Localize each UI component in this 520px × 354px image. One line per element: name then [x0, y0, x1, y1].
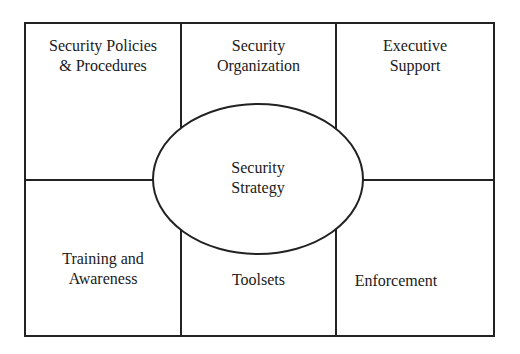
- center-security-strategy: Security Strategy: [183, 158, 333, 198]
- cell-toolsets: Toolsets: [181, 270, 336, 290]
- security-strategy-diagram: Security Policies & Procedures Security …: [0, 0, 520, 354]
- cell-security-organization: Security Organization: [181, 36, 336, 76]
- cell-training-awareness: Training and Awareness: [25, 249, 181, 289]
- cell-enforcement: Enforcement: [336, 271, 456, 291]
- cell-executive-support: Executive Support: [336, 36, 494, 76]
- cell-security-policies-procedures: Security Policies & Procedures: [25, 36, 181, 76]
